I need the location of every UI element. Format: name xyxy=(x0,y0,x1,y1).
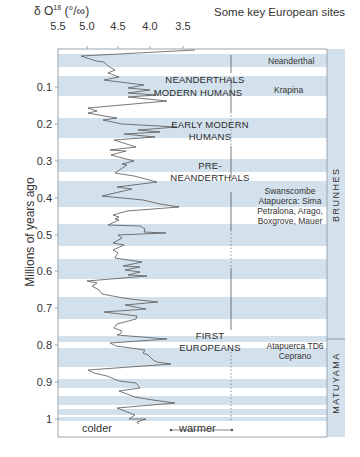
annotation-first-1: FIRST xyxy=(170,330,250,342)
interglacial-bands xyxy=(58,54,327,421)
site-petralona-arago: Petralona, Arago, xyxy=(250,206,330,216)
site-boxgrove-mauer: Boxgrove, Mauer xyxy=(250,216,330,226)
colder-label: colder xyxy=(82,422,112,434)
chron-brunhes: BRUNHES xyxy=(331,168,341,222)
site-swanscombe: Swanscombe xyxy=(250,186,330,196)
annotation-early-modern-1: EARLY MODERN xyxy=(160,119,260,131)
annotation-early-modern-2: HUMANS xyxy=(160,131,260,143)
annotation-pre-1: PRE- xyxy=(160,160,260,172)
chart-plot xyxy=(0,0,360,457)
site-krapina: Krapina xyxy=(274,85,303,95)
site-atapuerca-td6: Atapuerca TD6 xyxy=(260,341,330,351)
annotation-first-2: EUROPEANS xyxy=(170,342,250,354)
site-neanderthal: Neanderthal xyxy=(268,56,314,66)
site-atapuerca-sima: Atapuerca: Sima xyxy=(250,196,330,206)
chron-matuyama: MATUYAMA xyxy=(331,351,341,415)
annotation-modern-humans: MODERN HUMANS xyxy=(153,87,243,99)
annotation-neanderthals: NEANDERTHALS xyxy=(150,74,260,86)
site-ceprano: Ceprano xyxy=(260,351,330,361)
annotation-pre-2: NEANDERTHALS xyxy=(160,172,260,184)
warmer-label: warmer xyxy=(179,422,216,434)
